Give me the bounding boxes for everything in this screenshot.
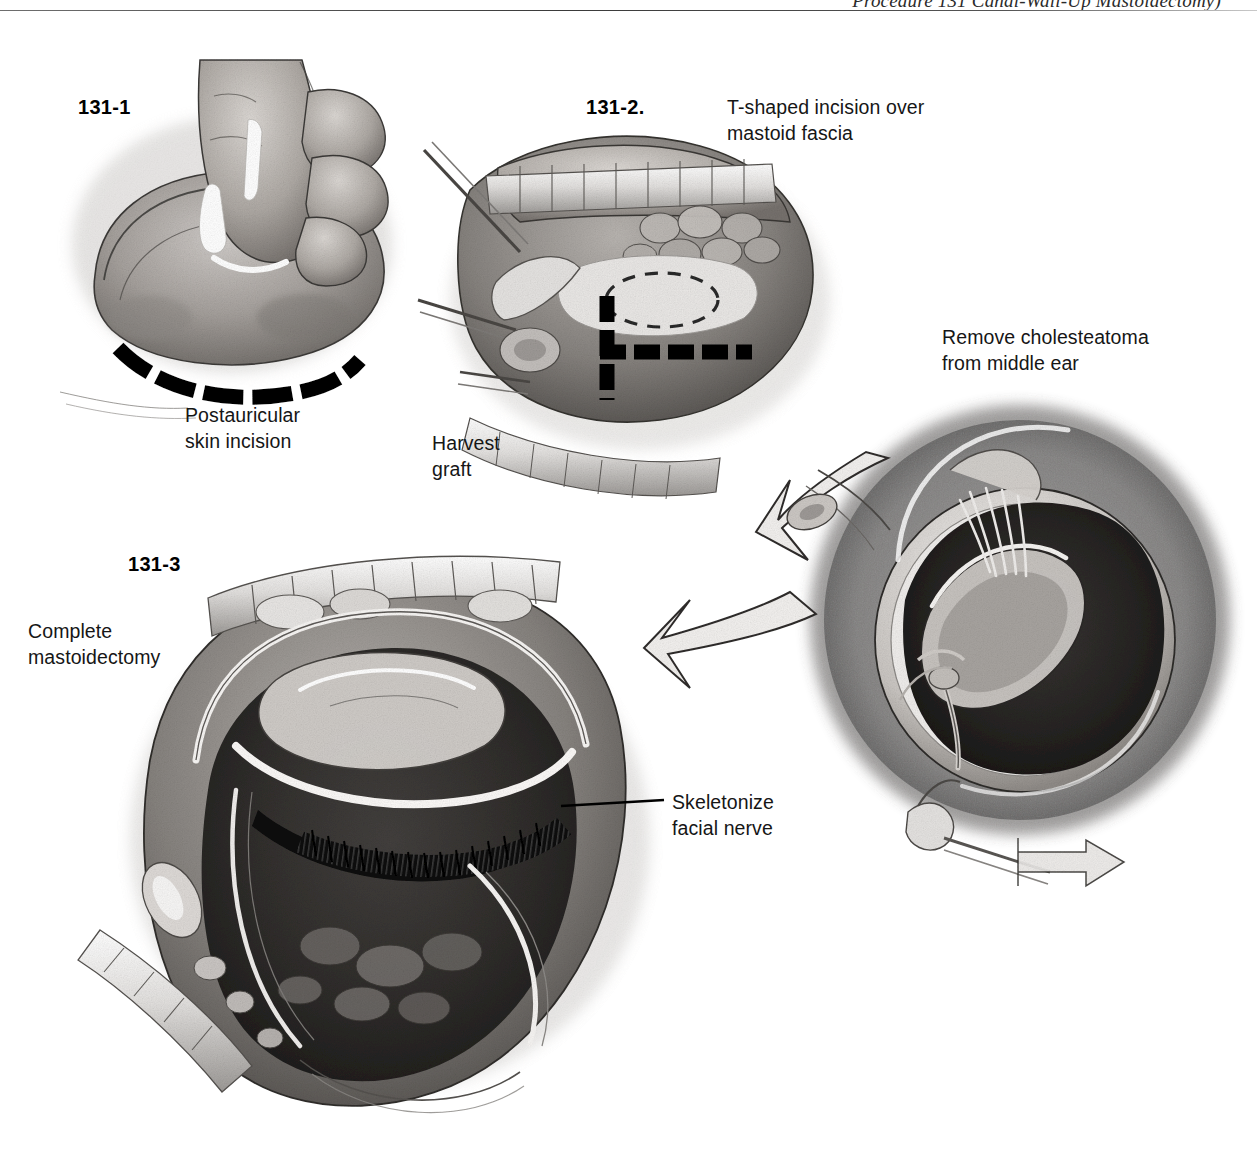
illustration-canvas [0,0,1257,1165]
facial-nerve-leader-line [561,800,664,806]
fat-lobules [623,206,780,269]
postauricular-incision-marking [118,348,360,397]
middle-ear-instrument [906,780,1124,886]
skeletonize-facial-nerve-label: Skeletonize facial nerve [672,789,774,841]
retractor-inferior-left [78,852,283,1092]
retractor-superior [208,556,560,636]
figure-131-1-number: 131-1 [78,96,131,119]
figure-131-2-caption: T-shaped incision over mastoid fascia [727,94,924,146]
facial-nerve-band [252,810,566,881]
retractor-lower [462,418,720,499]
transition-arrow [644,452,890,688]
figure-131-3-number: 131-3 [128,553,181,576]
retractor-upper [486,159,776,214]
hand [199,60,389,286]
harvest-instruments [418,142,580,394]
t-shaped-incision-marking [600,296,752,400]
ossicles [900,651,964,768]
middle-ear-illustration [810,405,1230,886]
air-cells [278,927,482,1024]
middle-ear-strands [960,488,1026,576]
harvest-graft-label: Harvest graft [432,430,500,482]
header-rule [0,10,1257,11]
figure-131-1-caption: Postauricular skin incision [185,402,300,454]
figure-131-3-caption: Complete mastoidectomy [28,618,160,670]
fascia-graft-outline [606,273,718,327]
figure-131-3-illustration [78,556,650,1112]
figure-artwork [0,0,1257,1165]
marking-pen [200,120,287,270]
figure-131-2-number: 131-2. [586,96,645,119]
remove-cholesteatoma-caption: Remove cholesteatoma from middle ear [942,324,1149,376]
